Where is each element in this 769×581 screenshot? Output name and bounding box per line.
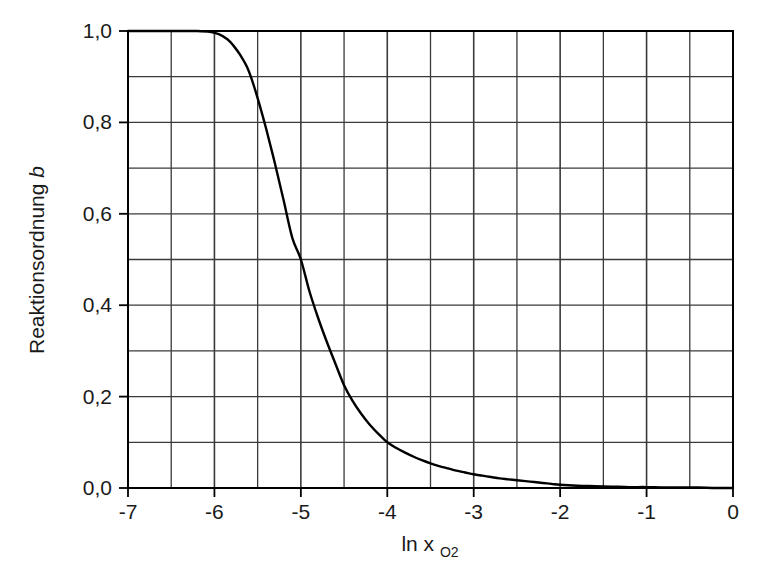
x-tick-label: -4 <box>378 500 397 523</box>
reaktionsordnung-line-chart: -7-6-5-4-3-2-10 0,00,20,40,60,81,0 ln x … <box>0 0 769 581</box>
y-tick-label: 0,4 <box>83 293 113 316</box>
chart-figure: -7-6-5-4-3-2-10 0,00,20,40,60,81,0 ln x … <box>0 0 769 581</box>
x-tick-label: -1 <box>637 500 656 523</box>
y-tick-label: 0,8 <box>83 110 112 133</box>
y-tick-label: 0,2 <box>83 385 112 408</box>
x-tick-label: -2 <box>551 500 570 523</box>
svg-text:Reaktionsordnung b: Reaktionsordnung b <box>25 166 48 354</box>
x-tick-label: -6 <box>205 500 224 523</box>
x-tick-label: -7 <box>119 500 138 523</box>
y-tick-label: 1,0 <box>83 19 112 42</box>
x-tick-label: -5 <box>292 500 311 523</box>
y-axis-title: Reaktionsordnung b <box>25 166 48 354</box>
x-tick-label: 0 <box>727 500 739 523</box>
x-tick-label: -3 <box>464 500 483 523</box>
y-tick-label: 0,0 <box>83 476 112 499</box>
y-tick-label: 0,6 <box>83 202 112 225</box>
chart-background <box>0 0 769 581</box>
